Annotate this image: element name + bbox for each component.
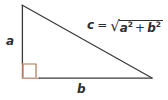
- right-triangle-figure: a b c = √ a2+b2: [0, 0, 168, 100]
- formula-equals-sign: =: [97, 19, 107, 31]
- radicand-term-b-base: b: [147, 21, 156, 35]
- radicand-term-a-exponent: 2: [128, 20, 133, 29]
- radicand-plus-operator: +: [135, 21, 145, 35]
- label-leg-b: b: [77, 83, 86, 95]
- formula-variable-c: c: [87, 19, 94, 31]
- radicand-term-a-base: a: [120, 21, 128, 35]
- radicand-term-b-exponent: 2: [156, 20, 161, 29]
- label-leg-a: a: [6, 35, 14, 47]
- radical-group: √ a2+b2: [110, 19, 163, 33]
- hypotenuse-line: [22, 5, 152, 78]
- radicand-expression: a2+b2: [119, 20, 163, 34]
- label-hypotenuse-formula: c = √ a2+b2: [87, 19, 163, 33]
- right-angle-marker-icon: [23, 64, 36, 78]
